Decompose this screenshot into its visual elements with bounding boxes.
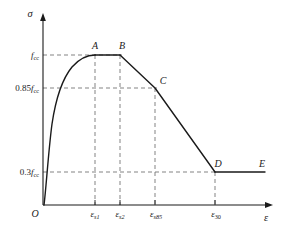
x-tick-label-eps-s1: εs1 <box>90 209 99 220</box>
vertical-guides <box>95 55 215 205</box>
y-tick-label-085fcc: 0.85fcc <box>15 83 39 94</box>
y-tick-labels: fcc 0.85fcc 0.3fcc <box>15 50 39 178</box>
y-tick-prefix-085fcc: 0.85 <box>15 83 31 93</box>
y-axis-label: σ <box>27 8 33 19</box>
stress-strain-chart: σ ε O fcc 0.85fcc 0.3fcc εs1 εs2 ε <box>0 0 284 238</box>
origin-label: O <box>31 208 38 219</box>
point-label-B: B <box>119 40 125 51</box>
x-tick-label-eps-30: ε30 <box>211 209 221 220</box>
y-tick-prefix-03fcc: 0.3 <box>20 167 32 177</box>
point-labels: A B C D E <box>91 40 265 169</box>
x-tick-label-eps-s85: εs85 <box>150 209 162 220</box>
y-tick-sub-03fcc: cc <box>34 171 40 178</box>
x-tick-labels: εs1 εs2 εs85 ε30 <box>90 209 220 220</box>
y-tick-label-fcc: fcc <box>31 50 39 61</box>
x-axis-arrow <box>265 202 273 208</box>
curve-group <box>44 55 265 205</box>
curve-rising-branch <box>44 55 95 205</box>
point-label-C: C <box>160 75 167 86</box>
x-tick-sub-eps-30: 30 <box>215 213 221 220</box>
y-tick-label-03fcc: 0.3fcc <box>20 167 40 178</box>
point-label-A: A <box>91 40 99 51</box>
point-label-D: D <box>213 158 222 169</box>
y-tick-sub-085fcc: cc <box>34 87 40 94</box>
point-label-E: E <box>258 158 265 169</box>
y-tick-sub-fcc: cc <box>34 54 40 61</box>
y-axis-arrow <box>40 13 46 21</box>
x-tick-sub-eps-s85: s85 <box>153 213 162 220</box>
curve-softening-BD <box>120 55 215 172</box>
figure-container: σ ε O fcc 0.85fcc 0.3fcc εs1 εs2 ε <box>0 0 284 238</box>
x-axis-label: ε <box>264 212 269 223</box>
x-tick-sub-eps-s1: s1 <box>94 213 100 220</box>
x-tick-sub-eps-s2: s2 <box>119 213 125 220</box>
x-axis-ticks <box>95 200 215 205</box>
x-tick-label-eps-s2: εs2 <box>115 209 124 220</box>
axes <box>40 13 273 208</box>
